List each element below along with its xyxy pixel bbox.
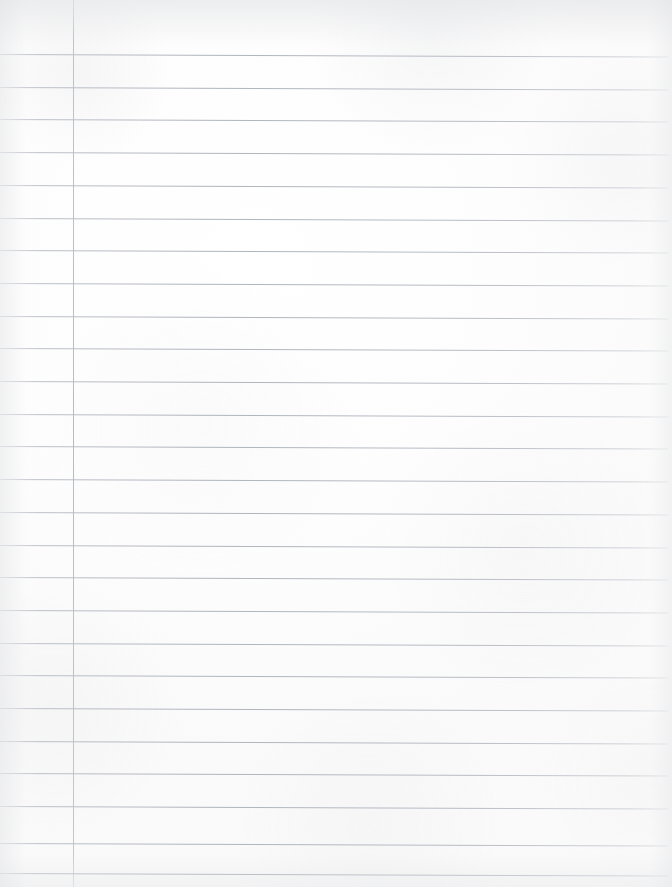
rule-line: [0, 185, 668, 189]
rule-line: [0, 773, 668, 777]
rule-line: [0, 348, 668, 352]
notebook-page: [0, 0, 672, 887]
rule-line: [0, 152, 668, 156]
rule-line: [0, 316, 668, 320]
rule-line: [0, 741, 668, 745]
rule-line: [0, 708, 668, 712]
rule-line: [0, 806, 668, 810]
rule-line: [0, 479, 668, 483]
rule-line: [0, 643, 668, 647]
rule-line: [0, 414, 668, 418]
rule-line: [0, 843, 668, 847]
rule-line: [0, 119, 668, 123]
rule-line: [0, 610, 668, 614]
rule-line: [0, 283, 668, 287]
rule-line: [0, 446, 668, 450]
rule-line: [0, 675, 668, 679]
rule-line: [0, 545, 668, 549]
rule-line: [0, 577, 668, 581]
rule-line: [0, 54, 668, 58]
margin-rule: [73, 0, 74, 887]
rule-line: [0, 87, 668, 91]
rule-line: [0, 250, 668, 254]
rule-line: [0, 512, 668, 516]
rule-line: [0, 381, 668, 385]
rule-line: [0, 218, 668, 222]
rule-line: [0, 873, 668, 877]
ruled-writing-area: [0, 0, 672, 887]
